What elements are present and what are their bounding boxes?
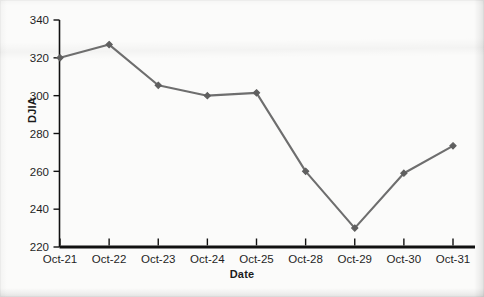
y-axis-tick-label: 260 — [30, 166, 49, 178]
x-axis-tick-label: Oct-29 — [337, 253, 372, 265]
data-point-marker — [204, 93, 210, 99]
y-axis-tick-label: 320 — [30, 52, 49, 64]
data-line — [60, 45, 453, 228]
x-axis-tick-label: Oct-22 — [92, 253, 127, 265]
x-axis-tick-label: Oct-25 — [239, 253, 274, 265]
x-axis-title: Date — [0, 268, 484, 280]
line-chart: 220240260280300320340Oct-21Oct-22Oct-23O… — [0, 0, 484, 297]
y-axis-tick-label: 340 — [30, 14, 49, 26]
y-axis-title: DJIA — [26, 80, 38, 140]
x-axis-tick-label: Oct-31 — [436, 253, 471, 265]
chart-page: 220240260280300320340Oct-21Oct-22Oct-23O… — [0, 0, 484, 297]
x-axis-tick-label: Oct-30 — [387, 253, 422, 265]
x-axis-tick-label: Oct-23 — [141, 253, 176, 265]
x-axis-tick-label: Oct-28 — [288, 253, 323, 265]
y-axis-tick-label: 220 — [30, 241, 49, 253]
x-axis-tick-label: Oct-24 — [190, 253, 225, 265]
data-point-marker — [57, 55, 63, 61]
y-axis-tick-label: 240 — [30, 203, 49, 215]
x-axis-tick-label: Oct-21 — [43, 253, 78, 265]
